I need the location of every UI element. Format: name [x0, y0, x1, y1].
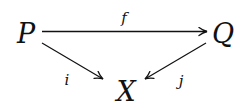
arrow-j	[145, 43, 206, 79]
node-p: P	[17, 20, 35, 47]
arrow-label-j: j	[179, 74, 184, 89]
arrow-label-f: f	[121, 11, 127, 26]
node-q: Q	[212, 20, 234, 47]
commutative-diagram: P Q X f i j	[0, 0, 243, 110]
node-x: X	[116, 78, 135, 105]
arrow-i	[42, 43, 103, 79]
arrow-label-i: i	[65, 73, 70, 88]
